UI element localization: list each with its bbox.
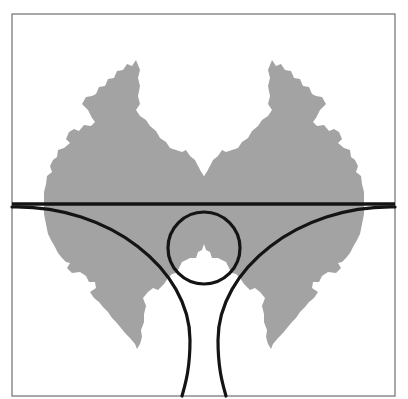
fractal-diagram — [0, 0, 408, 399]
diagram-canvas — [0, 0, 408, 399]
